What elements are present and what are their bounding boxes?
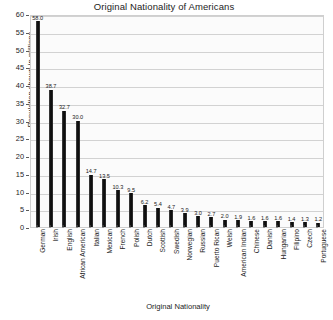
bar-value-label: 58.0 xyxy=(32,15,43,21)
chart-title: Original Nationality of Americans xyxy=(0,1,328,12)
y-tick-label: 25 xyxy=(0,135,24,143)
x-tick-slot: Scottish xyxy=(150,229,163,301)
bar-slot[interactable]: 1.9 xyxy=(231,16,244,227)
bar-slot[interactable]: 1.6 xyxy=(245,16,258,227)
x-tick-mark xyxy=(50,225,51,228)
x-tick-mark xyxy=(76,225,77,228)
bar-value-label: 3.9 xyxy=(181,207,189,213)
x-tick-label: Portuguese xyxy=(320,229,327,263)
y-tick-label: 45 xyxy=(0,64,24,72)
x-axis-ticks: GermanIrishEnglishAfrican AmericanItalia… xyxy=(30,229,324,301)
bar-slot[interactable]: 30.0 xyxy=(71,16,84,227)
x-tick-slot: Dutch xyxy=(137,229,150,301)
bar-slot[interactable]: 1.4 xyxy=(285,16,298,227)
y-tick-label: 5 xyxy=(0,206,24,214)
x-tick-slot: Hungarian xyxy=(271,229,284,301)
y-tick-label: 55 xyxy=(0,29,24,37)
x-tick-mark xyxy=(36,225,37,228)
bar[interactable] xyxy=(36,21,40,227)
y-tick-mark xyxy=(26,122,29,123)
bar[interactable] xyxy=(49,90,53,227)
bar-slot[interactable]: 14.7 xyxy=(84,16,97,227)
x-tick-slot: Portuguese xyxy=(311,229,324,301)
x-tick-slot: Filipino xyxy=(284,229,297,301)
y-tick-mark xyxy=(26,86,29,87)
x-tick-mark xyxy=(130,225,131,228)
bar-slot[interactable]: 3.9 xyxy=(178,16,191,227)
x-tick-slot: Danish xyxy=(257,229,270,301)
bar-slot[interactable]: 58.0 xyxy=(31,16,44,227)
bar-slot[interactable]: 1.3 xyxy=(298,16,311,227)
y-tick-label: 60 xyxy=(0,11,24,19)
bar-slot[interactable]: 3.0 xyxy=(191,16,204,227)
y-tick-mark xyxy=(26,104,29,105)
y-tick-label: 30 xyxy=(0,118,24,126)
bar-value-label: 9.5 xyxy=(127,187,135,193)
y-tick-label: 15 xyxy=(0,171,24,179)
bar-slot[interactable]: 10.3 xyxy=(111,16,124,227)
x-tick-slot: French xyxy=(110,229,123,301)
bar-slot[interactable]: 2.7 xyxy=(205,16,218,227)
bar-value-label: 30.0 xyxy=(72,114,83,120)
bar-value-label: 10.3 xyxy=(112,184,123,190)
bar-series: 58.038.732.730.014.713.510.39.56.25.44.7… xyxy=(31,16,323,227)
bar-slot[interactable]: 38.7 xyxy=(44,16,57,227)
y-tick-mark xyxy=(26,228,29,229)
x-tick-slot: Polish xyxy=(124,229,137,301)
bar-slot[interactable]: 5.4 xyxy=(151,16,164,227)
bar-value-label: 1.2 xyxy=(314,216,322,222)
y-tick-mark xyxy=(26,157,29,158)
bar-slot[interactable]: 2.0 xyxy=(218,16,231,227)
bar-value-label: 3.0 xyxy=(194,210,202,216)
x-tick-mark xyxy=(303,225,304,228)
bar[interactable] xyxy=(143,205,147,227)
bar-slot[interactable]: 4.7 xyxy=(165,16,178,227)
x-tick-mark xyxy=(290,225,291,228)
bar-value-label: 6.2 xyxy=(141,199,149,205)
y-tick-mark xyxy=(26,210,29,211)
bar-slot[interactable]: 1.6 xyxy=(258,16,271,227)
y-tick-mark xyxy=(26,139,29,140)
x-tick-mark xyxy=(223,225,224,228)
x-tick-mark xyxy=(90,225,91,228)
x-tick-slot: American Indian xyxy=(230,229,243,301)
x-tick-slot: Swedish xyxy=(164,229,177,301)
bar[interactable] xyxy=(116,190,120,227)
x-tick-mark xyxy=(237,225,238,228)
bar-slot[interactable]: 9.5 xyxy=(125,16,138,227)
x-tick-mark xyxy=(143,225,144,228)
y-tick-mark xyxy=(26,193,29,194)
bar-slot[interactable]: 32.7 xyxy=(58,16,71,227)
bar[interactable] xyxy=(129,193,133,227)
bar-slot[interactable]: 1.2 xyxy=(312,16,324,227)
x-tick-mark xyxy=(116,225,117,228)
x-tick-slot: Irish xyxy=(43,229,56,301)
x-tick-slot: English xyxy=(57,229,70,301)
bar-value-label: 1.6 xyxy=(261,215,269,221)
bar[interactable] xyxy=(102,179,106,227)
bar[interactable] xyxy=(62,111,66,227)
bar[interactable] xyxy=(89,175,93,227)
y-tick-label: 0 xyxy=(0,224,24,232)
y-tick-label: 50 xyxy=(0,47,24,55)
x-tick-mark xyxy=(250,225,251,228)
y-tick-mark xyxy=(26,68,29,69)
y-tick-mark xyxy=(26,51,29,52)
y-tick-label: 10 xyxy=(0,189,24,197)
bar-slot[interactable]: 13.5 xyxy=(98,16,111,227)
y-tick-mark xyxy=(26,15,29,16)
bar-value-label: 13.5 xyxy=(99,173,110,179)
y-tick-label: 20 xyxy=(0,153,24,161)
bar-slot[interactable]: 6.2 xyxy=(138,16,151,227)
bar-slot[interactable]: 1.6 xyxy=(272,16,285,227)
y-tick-label: 40 xyxy=(0,82,24,90)
x-tick-mark xyxy=(63,225,64,228)
x-tick-slot: German xyxy=(30,229,43,301)
x-tick-mark xyxy=(170,225,171,228)
x-tick-mark xyxy=(183,225,184,228)
y-tick-label: 35 xyxy=(0,100,24,108)
bar[interactable] xyxy=(76,121,80,228)
x-tick-slot: Puerto Rican xyxy=(204,229,217,301)
x-tick-slot: Czech xyxy=(297,229,310,301)
